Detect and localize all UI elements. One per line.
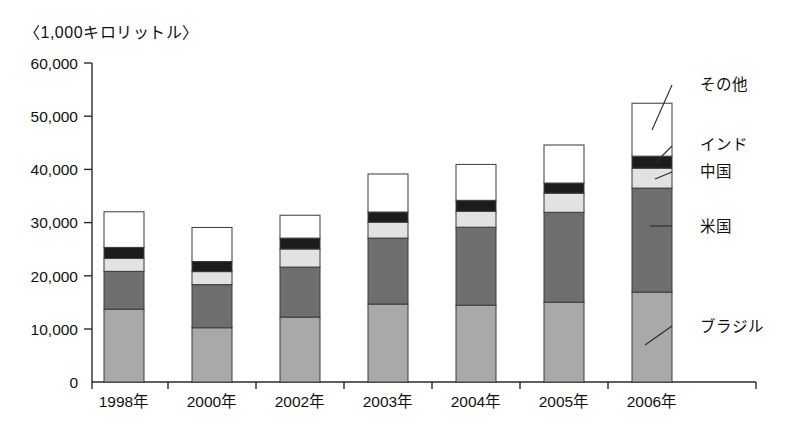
callout-label-usa: 米国	[700, 218, 732, 235]
bar-segment	[368, 304, 408, 382]
bar-segment	[280, 238, 320, 249]
x-axis-label-2004年: 2004年	[451, 393, 501, 410]
bar-segment	[192, 328, 232, 382]
y-axis-label-0: 0	[69, 374, 78, 391]
bar-segment	[632, 292, 672, 382]
bar-segment	[192, 227, 232, 261]
y-axis-label-20000: 20,000	[31, 268, 79, 285]
bar-segment	[192, 272, 232, 285]
y-axis-label-50000: 50,000	[31, 108, 79, 125]
y-axis-label-60000: 60,000	[31, 55, 79, 72]
bar-segment	[368, 238, 408, 304]
bar-segment	[104, 212, 144, 248]
bar-segment	[456, 200, 496, 211]
bar-segment	[368, 222, 408, 238]
bar-segment	[280, 215, 320, 238]
x-axis-label-2002年: 2002年	[275, 393, 325, 410]
stacked-bar-chart: 60,000 50,000 40,000 30,000 20,000 10,00…	[0, 0, 796, 439]
x-axis-labels-group: 1998年2000年2002年2003年2004年2005年2006年	[99, 393, 677, 410]
bar-segment	[632, 168, 672, 188]
x-axis-label-1998年: 1998年	[99, 393, 149, 410]
chart-container: 〈1,000キロリットル〉 60,000 50,000 40,000 30,00…	[0, 0, 796, 439]
callout-label-india: インド	[700, 136, 748, 153]
y-axis-label-40000: 40,000	[31, 161, 79, 178]
callout-label-other: その他	[700, 76, 748, 93]
bar-segment	[456, 305, 496, 382]
bar-segment	[544, 193, 584, 212]
bar-segment	[456, 227, 496, 305]
bar-segment	[104, 258, 144, 271]
bar-segment	[104, 271, 144, 309]
bar-segment	[544, 183, 584, 193]
y-axis-label-10000: 10,000	[31, 321, 79, 338]
callout-label-brazil: ブラジル	[700, 317, 764, 335]
bar-segment	[104, 309, 144, 382]
x-ticks-group	[92, 382, 756, 389]
bar-segment	[632, 188, 672, 292]
bars-group	[104, 103, 672, 382]
bar-segment	[456, 211, 496, 227]
bar-segment	[192, 262, 232, 272]
bar-segment	[456, 164, 496, 200]
bar-segment	[280, 249, 320, 267]
bar-segment	[280, 267, 320, 317]
y-axis-label-30000: 30,000	[31, 214, 79, 231]
x-axis-label-2000年: 2000年	[187, 393, 237, 410]
callout-label-china: 中国	[700, 163, 732, 180]
bar-segment	[368, 174, 408, 212]
bar-segment	[544, 302, 584, 382]
bar-segment	[544, 212, 584, 302]
bar-segment	[104, 247, 144, 258]
bar-segment	[368, 212, 408, 222]
x-axis-label-2005年: 2005年	[539, 393, 589, 410]
bar-segment	[544, 145, 584, 183]
bar-segment	[280, 317, 320, 382]
x-axis-label-2003年: 2003年	[363, 393, 413, 410]
bar-segment	[192, 285, 232, 328]
bar-segment	[632, 156, 672, 168]
x-axis-label-2006年: 2006年	[627, 393, 677, 410]
